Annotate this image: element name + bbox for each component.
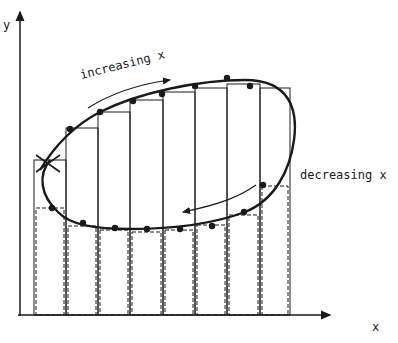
x-axis-label: x <box>372 320 379 334</box>
lower-bar <box>68 226 96 315</box>
lower-bar <box>262 186 288 315</box>
lower-bar <box>165 230 193 315</box>
decreasing-arrow-icon <box>183 185 256 212</box>
sample-point <box>247 83 253 89</box>
sample-point <box>144 226 150 232</box>
lower-bar <box>36 208 64 315</box>
decreasing-label: decreasing x <box>300 168 387 182</box>
upper-bar <box>98 112 130 315</box>
sample-point <box>80 220 86 226</box>
sample-point <box>192 83 198 89</box>
sample-point <box>49 205 55 211</box>
upper-bar <box>130 100 163 315</box>
lower-bar <box>132 232 161 315</box>
sample-point <box>177 226 183 232</box>
upper-bar <box>227 84 260 315</box>
lower-bar <box>197 225 225 315</box>
sample-point <box>209 223 215 229</box>
hysteresis-loop <box>40 80 295 229</box>
sample-point <box>241 209 247 215</box>
sample-points <box>49 75 266 232</box>
sample-point <box>130 98 136 104</box>
sample-point <box>112 225 118 231</box>
sample-point <box>97 109 103 115</box>
upper-bars <box>34 84 290 315</box>
lower-bar <box>229 215 258 315</box>
sample-point <box>260 182 266 188</box>
upper-bar <box>163 92 195 315</box>
lower-bars <box>36 186 288 315</box>
upper-bar <box>34 160 66 315</box>
increasing-arrow-icon <box>88 80 170 108</box>
sample-point <box>159 91 165 97</box>
axes <box>18 12 330 316</box>
lower-bar <box>100 230 128 315</box>
y-axis-label: y <box>3 18 10 32</box>
sample-point <box>67 126 73 132</box>
sample-point <box>224 75 230 81</box>
